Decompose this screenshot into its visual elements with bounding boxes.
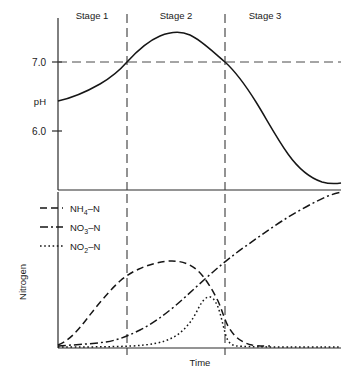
legend-item-no2n: NO2–N	[40, 241, 100, 254]
legend-item-no3n: NO3–N	[40, 222, 100, 235]
chart-svg: 7.0 6.0 pH Stage 1 Stage 2 Stage 3	[0, 0, 348, 374]
stage-label-2: Stage 2	[160, 10, 193, 21]
time-axis-title: Time	[190, 357, 211, 368]
nh4n-curve	[58, 261, 270, 346]
legend-label-nh4n: NH4–N	[70, 203, 100, 216]
no2n-curve	[58, 297, 341, 347]
ph-tick-label-7: 7.0	[32, 57, 46, 68]
ph-axis-title: pH	[34, 96, 46, 107]
legend-label-no3n: NO3–N	[70, 222, 100, 235]
ph-curve	[58, 32, 341, 183]
legend-item-nh4n: NH4–N	[40, 203, 100, 216]
nitrogen-panel: Nitrogen Time NH4–N NO3–N NO2–N	[17, 192, 341, 368]
nitrogen-legend: NH4–N NO3–N NO2–N	[40, 203, 100, 254]
ph-panel: 7.0 6.0 pH Stage 1 Stage 2 Stage 3	[32, 10, 341, 190]
ph-tick-label-6: 6.0	[32, 126, 46, 137]
stage-label-3: Stage 3	[249, 10, 282, 21]
composting-stages-figure: 7.0 6.0 pH Stage 1 Stage 2 Stage 3	[0, 0, 348, 374]
nitrogen-axis-title: Nitrogen	[17, 264, 28, 300]
legend-label-no2n: NO2–N	[70, 241, 100, 254]
stage-label-1: Stage 1	[76, 10, 109, 21]
no3n-curve	[58, 192, 341, 346]
